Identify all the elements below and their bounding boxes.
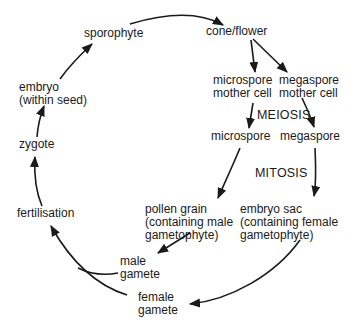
node-megaspore-mother-cell: megaspore mother cell bbox=[279, 74, 339, 100]
arrow-cone-to-megaspore-mother-cell bbox=[253, 39, 287, 72]
arrow-to-fertilisation bbox=[51, 226, 127, 295]
arrow-to-embryo bbox=[37, 106, 44, 137]
life-cycle-diagram: sporophyte cone/flower microspore mother… bbox=[0, 0, 361, 332]
node-female-gamete: female gamete bbox=[138, 291, 178, 317]
node-microspore-mother-cell: microspore mother cell bbox=[213, 74, 272, 100]
node-megaspore: megaspore bbox=[280, 130, 340, 143]
node-microspore: microspore bbox=[211, 130, 270, 143]
arrow-to-sporophyte bbox=[60, 44, 92, 79]
node-pollen-grain: pollen grain (containing male gametophyt… bbox=[145, 203, 233, 242]
node-male-gamete: male gamete bbox=[120, 255, 160, 281]
arrow-cone-to-microspore-mother-cell bbox=[251, 40, 255, 72]
node-fertilisation: fertilisation bbox=[17, 207, 74, 220]
node-zygote: zygote bbox=[19, 138, 54, 151]
label-meiosis: MEIOSIS bbox=[257, 109, 311, 122]
arrow-to-female-gamete bbox=[190, 240, 300, 304]
label-mitosis: MITOSIS bbox=[255, 167, 308, 180]
arrow-to-pollen-grain bbox=[218, 148, 240, 198]
node-cone-flower: cone/flower bbox=[206, 25, 267, 38]
arrow-to-microspore bbox=[249, 103, 253, 128]
arrow-to-embryo-sac bbox=[314, 148, 316, 196]
node-embryo-sac: embryo sac (containing female gametophyt… bbox=[240, 203, 338, 242]
node-sporophyte: sporophyte bbox=[84, 27, 143, 40]
node-embryo: embryo (within seed) bbox=[19, 81, 87, 107]
arrow-to-zygote bbox=[35, 157, 42, 206]
